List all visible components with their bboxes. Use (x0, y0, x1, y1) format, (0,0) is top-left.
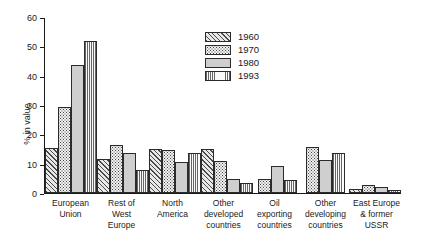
y-tick (40, 106, 44, 107)
bar (123, 153, 136, 193)
legend-label: 1970 (238, 45, 259, 55)
bar (149, 149, 162, 193)
y-tick (40, 18, 44, 19)
bar-chart: % in value 0102030405060 European UnionR… (0, 0, 423, 248)
y-tick-label: 20 (27, 131, 37, 140)
bar (84, 41, 97, 193)
bar (214, 161, 227, 193)
bar-group (97, 18, 149, 193)
x-axis-line (44, 193, 401, 194)
bar (349, 189, 362, 193)
x-axis-labels: European UnionRest of West EuropeNorth A… (45, 198, 402, 231)
bar (45, 148, 58, 193)
x-axis-label: East Europe & former USSR (351, 198, 402, 231)
x-axis-label: Other developing countries (300, 198, 351, 231)
x-axis-label: Other developed countries (198, 198, 249, 231)
x-axis-label: Oil exporting countries (249, 198, 300, 231)
legend-swatch (205, 45, 231, 55)
y-tick-label: 0 (32, 190, 37, 199)
legend-item: 1970 (205, 43, 259, 56)
y-tick (40, 165, 44, 166)
x-axis-label: North America (147, 198, 198, 231)
x-axis-label: Rest of West Europe (96, 198, 147, 231)
bar (362, 185, 375, 193)
bar (258, 179, 271, 193)
legend-item: 1993 (205, 69, 259, 82)
bar (271, 166, 284, 193)
bar (110, 145, 123, 193)
bar (284, 180, 297, 193)
legend-swatch (205, 71, 231, 81)
bar (201, 149, 214, 193)
legend-label: 1980 (238, 58, 259, 68)
bar (58, 107, 71, 193)
x-axis-label: European Union (45, 198, 96, 231)
bar-group (45, 18, 97, 193)
bar (97, 159, 110, 193)
bar (188, 153, 201, 193)
bar (71, 65, 84, 193)
bar (240, 183, 253, 193)
y-tick (40, 135, 44, 136)
y-tick-label: 50 (27, 43, 37, 52)
y-tick (40, 194, 44, 195)
bar (306, 147, 319, 193)
bar (136, 170, 149, 193)
y-tick (40, 77, 44, 78)
bar (319, 160, 332, 193)
y-tick-label: 30 (27, 102, 37, 111)
bar-group (149, 18, 201, 193)
bar (175, 162, 188, 193)
bar-group (253, 18, 301, 193)
bar (332, 153, 345, 193)
y-tick (40, 47, 44, 48)
bar (388, 190, 401, 193)
bar (162, 150, 175, 193)
y-tick-label: 40 (27, 72, 37, 81)
legend-item: 1960 (205, 30, 259, 43)
bar-group (349, 18, 401, 193)
y-tick-label: 60 (27, 14, 37, 23)
legend-label: 1960 (238, 32, 259, 42)
bar (227, 179, 240, 193)
chart-legend: 1960197019801993 (205, 30, 259, 82)
legend-label: 1993 (238, 71, 259, 81)
legend-swatch (205, 32, 231, 42)
y-tick-label: 10 (27, 160, 37, 169)
bar (375, 187, 388, 193)
bar-group (301, 18, 349, 193)
legend-item: 1980 (205, 56, 259, 69)
legend-swatch (205, 58, 231, 68)
